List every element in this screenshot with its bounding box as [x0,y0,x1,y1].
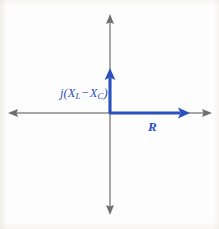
imaginary-axis-top-arrowhead [106,14,114,24]
reactance-label-minus: − [81,86,90,100]
imaginary-axis-bottom-arrowhead [106,205,114,215]
phasors-group [105,68,190,118]
reactance-label-close-paren: ) [103,86,107,100]
resistance-label: R [148,120,157,133]
phasor-diagram-canvas [0,0,219,229]
real-axis-right-arrowhead [202,109,212,117]
impedance-phasor-figure: j(XL−XC) R [0,0,219,229]
real-axis-left-arrowhead [8,109,18,117]
reactance-label: j(XL−XC) [60,87,108,101]
reactance-label-x-inductive: X [68,86,76,100]
reactance-label-subscript-l: L [76,91,81,101]
